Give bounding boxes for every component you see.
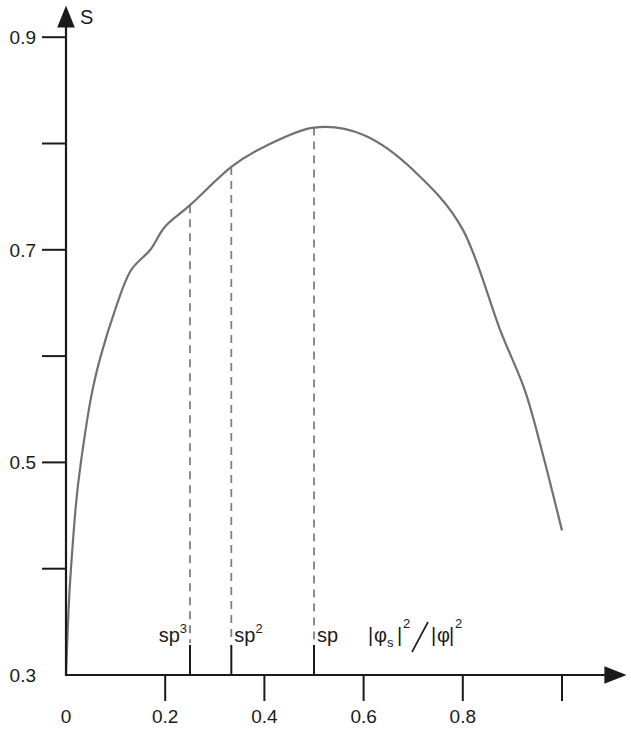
orbital-label: sp xyxy=(317,624,338,646)
y-tick-label: 0.9 xyxy=(10,27,36,48)
x-axis-label: | φ s | 2 | φ | 2 xyxy=(368,616,462,652)
svg-text:φ: φ xyxy=(374,624,387,646)
y-axis-label: S xyxy=(80,6,93,28)
svg-text:|: | xyxy=(449,624,454,646)
orbital-labels: sp3sp2sp xyxy=(159,621,338,675)
chart-canvas: 00.20.40.60.8 0.30.50.70.9 sp3sp2sp S | … xyxy=(0,0,631,730)
svg-text:2: 2 xyxy=(455,616,462,631)
orbital-label: sp2 xyxy=(234,621,262,646)
orbital-label: sp3 xyxy=(159,621,187,646)
y-tick-label: 0.5 xyxy=(10,452,36,473)
svg-text:2: 2 xyxy=(403,616,410,631)
y-tick-label: 0.3 xyxy=(10,665,36,686)
y-ticks: 0.30.50.70.9 xyxy=(10,27,66,686)
x-tick-label: 0 xyxy=(61,706,72,727)
x-tick-label: 0.4 xyxy=(251,706,278,727)
svg-text:|: | xyxy=(431,624,436,646)
y-tick-label: 0.7 xyxy=(10,240,36,261)
svg-text:|: | xyxy=(368,624,373,646)
svg-text:s: s xyxy=(387,635,394,650)
x-tick-label: 0.6 xyxy=(350,706,376,727)
x-tick-label: 0.2 xyxy=(152,706,178,727)
annotation-dashes xyxy=(190,128,314,643)
x-ticks: 00.20.40.60.8 xyxy=(61,675,562,727)
x-tick-label: 0.8 xyxy=(450,706,476,727)
svg-text:|: | xyxy=(397,624,402,646)
